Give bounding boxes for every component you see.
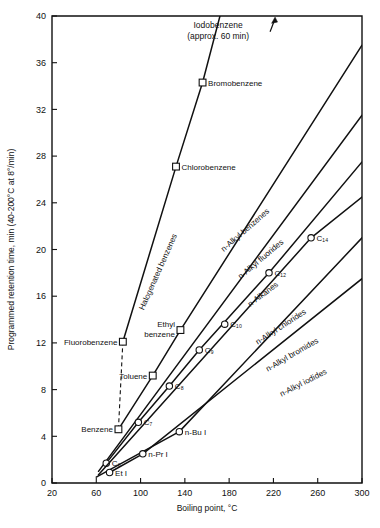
x-tick-label: 140 [177, 488, 192, 498]
x-tick-label: 20 [47, 488, 57, 498]
chart-figure: 2060100140180220260300Boiling point, °C0… [0, 0, 380, 528]
y-tick-label: 0 [41, 478, 46, 488]
data-point-marker [106, 469, 112, 475]
annotation-line-1: Iodobenzene [193, 20, 242, 30]
data-point-marker [149, 372, 156, 379]
y-tick-label: 20 [36, 245, 46, 255]
data-point-label: Benzene [81, 425, 113, 434]
data-point-label: Toluene [119, 372, 148, 381]
x-tick-label: 220 [266, 488, 281, 498]
data-point-marker [176, 428, 182, 434]
y-tick-label: 40 [36, 11, 46, 21]
y-tick-label: 4 [41, 432, 46, 442]
x-axis-label: Boiling point, °C [177, 503, 238, 513]
data-point-marker [177, 327, 184, 334]
data-point-label: n-Pr I [148, 450, 168, 459]
y-tick-label: 8 [41, 385, 46, 395]
y-tick-label: 16 [36, 291, 46, 301]
data-point-label: C₁₄ [317, 234, 329, 243]
y-axis-label: Programmed retention time, min (40-200°C… [6, 149, 16, 351]
data-point-label: n-Bu I [185, 428, 206, 437]
data-point-label: Ethyl [157, 320, 175, 329]
y-tick-label: 36 [36, 58, 46, 68]
data-point-marker [173, 163, 180, 170]
x-tick-label: 60 [91, 488, 101, 498]
data-point-marker [115, 426, 122, 433]
x-tick-label: 300 [354, 488, 369, 498]
data-point-marker [199, 79, 206, 86]
annotation-line-2: (approx. 60 min) [187, 31, 249, 41]
data-point-marker [166, 383, 172, 389]
data-point-label: benzene [144, 330, 175, 339]
data-point-marker [119, 338, 126, 345]
data-point-marker [135, 419, 141, 425]
data-point-marker [196, 347, 202, 353]
data-point-marker [140, 451, 146, 457]
y-tick-label: 24 [36, 198, 46, 208]
data-point-label: Chlorobenzene [182, 163, 237, 172]
data-point-marker [266, 270, 272, 276]
data-point-label: Et I [115, 469, 127, 478]
figure-background [0, 0, 380, 528]
y-tick-label: 28 [36, 151, 46, 161]
y-tick-label: 32 [36, 105, 46, 115]
x-tick-label: 260 [310, 488, 325, 498]
y-tick-label: 12 [36, 338, 46, 348]
data-point-marker [308, 235, 314, 241]
data-point-label: Fluorobenzene [64, 338, 118, 347]
data-point-label: Bromobenzene [208, 79, 263, 88]
x-tick-label: 180 [222, 488, 237, 498]
x-tick-label: 100 [133, 488, 148, 498]
data-point-marker [222, 321, 228, 327]
